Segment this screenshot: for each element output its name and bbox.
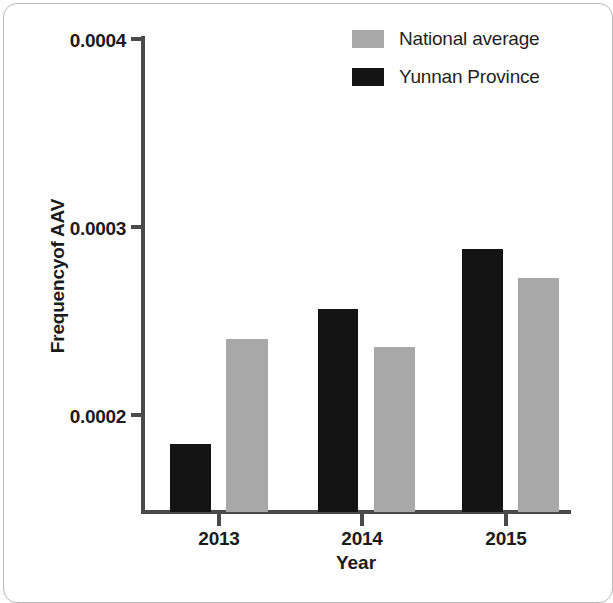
bar-2013-yunnan-province: [170, 444, 211, 512]
x-tick-label-2014: 2014: [317, 528, 407, 550]
legend-label-national-average: National average: [399, 28, 539, 50]
legend-entry-yunnan-province: Yunnan Province: [352, 58, 540, 96]
legend-swatch-yunnan-province-icon: [352, 68, 384, 86]
y-tick-mark-1: [131, 225, 142, 229]
legend-swatch-national-average-icon: [352, 30, 384, 48]
legend-entry-national-average: National average: [352, 20, 540, 58]
y-tick-label-2: 0.0002: [70, 406, 126, 428]
y-tick-label-1: 0.0003: [70, 218, 126, 240]
x-tick-label-2015: 2015: [461, 528, 551, 550]
y-axis-line: [141, 36, 145, 514]
legend-label-yunnan-province: Yunnan Province: [399, 66, 540, 88]
y-axis-title: Frequencyof AAV: [47, 156, 69, 396]
y-tick-label-0: 0.0004: [70, 30, 126, 52]
x-tick-label-2013: 2013: [174, 528, 264, 550]
bar-2013-national-average: [226, 339, 268, 512]
x-tick-mark-2014: [360, 514, 364, 526]
bar-2014-yunnan-province: [318, 309, 358, 512]
bar-2015-yunnan-province: [462, 249, 503, 512]
bar-2014-national-average: [374, 347, 415, 512]
y-tick-mark-0: [131, 37, 142, 41]
x-axis-title: Year: [141, 552, 571, 574]
x-tick-mark-2013: [217, 514, 221, 526]
bar-2015-national-average: [518, 278, 559, 512]
x-tick-mark-2015: [504, 514, 508, 526]
chart-legend: National average Yunnan Province: [352, 20, 540, 96]
y-tick-mark-2: [131, 413, 142, 417]
